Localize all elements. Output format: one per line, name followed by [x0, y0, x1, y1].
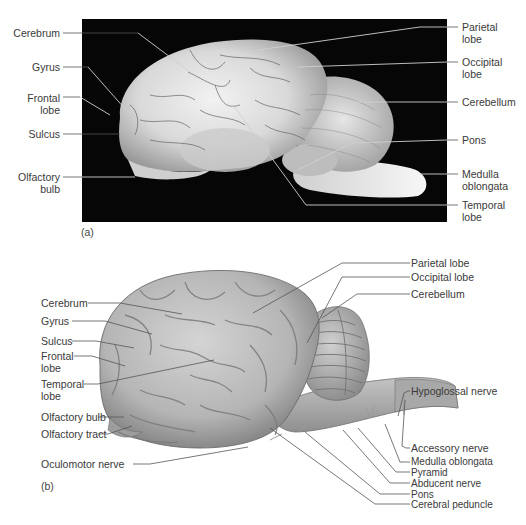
label-a-olfactory-bulb: Olfactory bulb — [5, 171, 60, 195]
panel-a-tag: (a) — [81, 226, 94, 238]
label-b-abducent-nerve: Abducent nerve — [411, 478, 481, 489]
label-a-cerebellum: Cerebellum — [462, 96, 516, 108]
label-a-pons: Pons — [462, 134, 486, 146]
label-b-gyrus: Gyrus — [41, 315, 69, 327]
label-b-olfactory-tract: Olfactory tract — [41, 428, 106, 440]
label-b-hypoglossal-nerve: Hypoglossal nerve — [411, 385, 497, 397]
label-a-sulcus: Sulcus — [5, 128, 60, 140]
label-b-cerebrum: Cerebrum — [41, 297, 88, 309]
label-b-frontal-lobe: Frontal lobe — [41, 350, 74, 374]
label-a-medulla-oblongata: Medulla oblongata — [462, 168, 508, 192]
label-b-medulla-oblongata: Medulla oblongata — [411, 456, 493, 467]
label-a-frontal-lobe: Frontal lobe — [5, 92, 60, 116]
label-a-parietal-lobe: Parietal lobe — [462, 21, 498, 45]
label-b-occipital-lobe: Occipital lobe — [411, 271, 474, 283]
label-b-oculomotor-nerve: Oculomotor nerve — [41, 458, 124, 470]
label-b-cerebellum: Cerebellum — [411, 288, 465, 300]
label-a-temporal-lobe: Temporal lobe — [462, 199, 505, 223]
label-b-olfactory-bulb: Olfactory bulb — [41, 411, 106, 423]
label-b-accessory-nerve: Accessory nerve — [411, 442, 489, 454]
label-b-sulcus: Sulcus — [41, 335, 73, 347]
label-a-gyrus: Gyrus — [5, 61, 60, 73]
label-b-parietal-lobe: Parietal lobe — [411, 257, 469, 269]
label-a-cerebrum: Cerebrum — [5, 27, 60, 39]
label-b-pyramid: Pyramid — [411, 467, 448, 478]
label-b-temporal-lobe: Temporal lobe — [41, 378, 84, 402]
label-a-occipital-lobe: Occipital lobe — [462, 56, 502, 80]
photo-temporal-lobe — [180, 128, 270, 172]
label-b-cerebral-peduncle: Cerebral peduncle — [411, 499, 493, 510]
panel-b-tag: (b) — [41, 480, 54, 492]
